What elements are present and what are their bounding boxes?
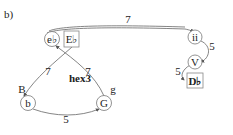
edge-label-G-eflat: 7	[85, 65, 91, 77]
node-G: G	[97, 96, 112, 111]
side-label-right: g	[110, 83, 116, 95]
node-eflat-label: e♭	[47, 33, 57, 45]
edge-label-eflat-ii: 7	[125, 13, 131, 25]
node-Eflat: E♭	[64, 31, 79, 47]
edge-label-b-G: 5	[63, 113, 69, 125]
edge-G-eflat	[56, 46, 104, 96]
node-Eflat-label: E♭	[66, 33, 78, 45]
node-Dflat: D♭	[187, 73, 203, 88]
panel-label: b)	[4, 8, 14, 21]
edge-label-ii-V: 5	[209, 40, 215, 52]
node-b-label: b	[25, 97, 31, 109]
edge-ii-V	[201, 41, 209, 62]
node-Dflat-label: D♭	[189, 75, 202, 87]
node-G-label: G	[100, 97, 108, 109]
node-eflat: e♭	[45, 32, 60, 47]
node-ii: ii	[188, 30, 202, 44]
edge-label-Eflat-b: 7	[45, 65, 51, 77]
node-b: b	[21, 96, 36, 111]
node-V: V	[188, 55, 202, 69]
node-V-label: V	[191, 56, 199, 68]
edge-label-V-Dflat: 5	[175, 65, 181, 77]
node-ii-label: ii	[192, 31, 198, 43]
side-label-left: B	[18, 83, 25, 95]
hex-diagram: e♭ E♭ ii V D♭ b G b) hex3 7 5 5 7 7 5 B …	[0, 0, 233, 135]
